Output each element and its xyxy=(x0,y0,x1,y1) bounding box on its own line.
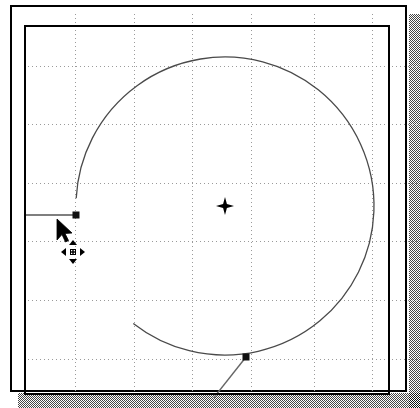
drawing-canvas[interactable] xyxy=(24,14,418,398)
drawing-window[interactable] xyxy=(10,5,407,392)
center-point-marker[interactable] xyxy=(216,197,234,215)
screenshot-root xyxy=(0,0,420,408)
move-four-arrows-icon xyxy=(60,239,86,265)
node-grip-1[interactable] xyxy=(243,354,250,361)
geometry-line-1[interactable] xyxy=(208,357,246,398)
geometry-layer[interactable] xyxy=(24,14,418,398)
